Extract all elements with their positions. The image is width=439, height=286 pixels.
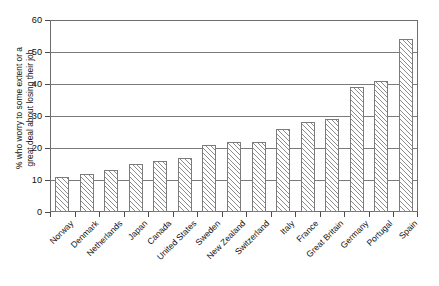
x-tick-mark-14: [393, 212, 394, 217]
bar-spain[interactable]: [399, 39, 413, 212]
x-tick-mark-0: [50, 212, 51, 217]
bar-great-britain[interactable]: [325, 119, 339, 212]
bar-slot: [222, 20, 247, 212]
bar-slot: [246, 20, 271, 212]
bar-slot: [271, 20, 296, 212]
bar-sweden[interactable]: [202, 145, 216, 212]
x-tick-mark-15: [417, 212, 418, 217]
bar-denmark[interactable]: [80, 174, 94, 212]
y-tick-label-40: 40: [32, 79, 42, 89]
x-tick-mark-4: [148, 212, 149, 217]
bar-portugal[interactable]: [374, 81, 388, 212]
x-tick-mark-6: [197, 212, 198, 217]
x-tick-label-portugal: Portugal: [365, 219, 394, 248]
bar-canada[interactable]: [153, 161, 167, 212]
bar-slot: [197, 20, 222, 212]
bar-slot: [50, 20, 75, 212]
x-tick-mark-5: [173, 212, 174, 217]
y-tick-label-0: 0: [37, 207, 42, 217]
x-tick-label-spain: Spain: [397, 219, 419, 241]
bar-italy[interactable]: [276, 129, 290, 212]
x-tick-mark-2: [99, 212, 100, 217]
y-axis-ticks: 0102030405060: [0, 0, 50, 286]
x-tick-mark-12: [344, 212, 345, 217]
x-tick-mark-7: [222, 212, 223, 217]
bar-switzerland[interactable]: [252, 142, 266, 212]
x-tick-mark-10: [295, 212, 296, 217]
bar-france[interactable]: [301, 122, 315, 212]
bar-slot: [75, 20, 100, 212]
x-tick-mark-1: [75, 212, 76, 217]
x-tick-mark-11: [320, 212, 321, 217]
x-axis-ticks: [50, 212, 418, 218]
bars-layer: [50, 20, 418, 212]
bar-united-states[interactable]: [178, 158, 192, 212]
bar-netherlands[interactable]: [104, 170, 118, 212]
x-tick-mark-8: [246, 212, 247, 217]
bar-slot: [369, 20, 394, 212]
x-tick-mark-13: [369, 212, 370, 217]
y-tick-label-30: 30: [32, 111, 42, 121]
bar-slot: [173, 20, 198, 212]
bar-norway[interactable]: [55, 177, 69, 212]
bar-chart: % who worry to some extent or a great de…: [0, 0, 439, 286]
bar-slot: [344, 20, 369, 212]
bar-slot: [320, 20, 345, 212]
bar-slot: [295, 20, 320, 212]
bar-slot: [148, 20, 173, 212]
y-tick-label-10: 10: [32, 175, 42, 185]
y-tick-label-50: 50: [32, 47, 42, 57]
y-tick-label-20: 20: [32, 143, 42, 153]
x-tick-mark-3: [124, 212, 125, 217]
bar-slot: [393, 20, 418, 212]
bar-slot: [99, 20, 124, 212]
bar-japan[interactable]: [129, 164, 143, 212]
y-tick-label-60: 60: [32, 15, 42, 25]
x-tick-label-italy: Italy: [279, 219, 296, 236]
bar-germany[interactable]: [350, 87, 364, 212]
x-tick-mark-9: [271, 212, 272, 217]
bar-new-zealand[interactable]: [227, 142, 241, 212]
x-axis-labels: NorwayDenmarkNetherlandsJapanCanadaUnite…: [50, 219, 418, 286]
bar-slot: [124, 20, 149, 212]
